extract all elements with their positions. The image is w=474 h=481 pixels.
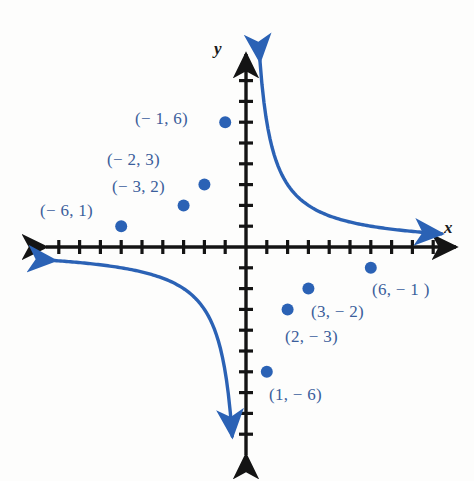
- data-point: [198, 179, 210, 191]
- point-label: (6, − 1 ): [372, 281, 430, 298]
- point-label: (− 6, 1): [40, 202, 93, 219]
- curve-branch-lower-right: [260, 61, 442, 234]
- point-label: (− 2, 3): [107, 151, 160, 168]
- graph-figure: y x (− 6, 1)(− 3, 2)(− 2, 3)(− 1, 6)(1, …: [0, 0, 474, 481]
- data-point: [365, 262, 377, 274]
- curve-branch-upper-left: [55, 261, 233, 437]
- data-point: [219, 116, 231, 128]
- point-label: (− 1, 6): [135, 110, 188, 127]
- point-label: (2, − 3): [285, 328, 338, 345]
- y-axis-label: y: [214, 40, 222, 57]
- data-point: [261, 366, 273, 378]
- point-label: (1, − 6): [269, 386, 322, 403]
- data-point: [115, 220, 127, 232]
- point-label: (3, − 2): [311, 303, 364, 320]
- data-point: [282, 303, 294, 315]
- data-point: [178, 199, 190, 211]
- data-point: [302, 283, 314, 295]
- x-axis-label: x: [444, 219, 453, 236]
- coordinate-plane-svg: [0, 0, 474, 481]
- axes-group: [46, 54, 456, 455]
- point-label: (− 3, 2): [112, 178, 165, 195]
